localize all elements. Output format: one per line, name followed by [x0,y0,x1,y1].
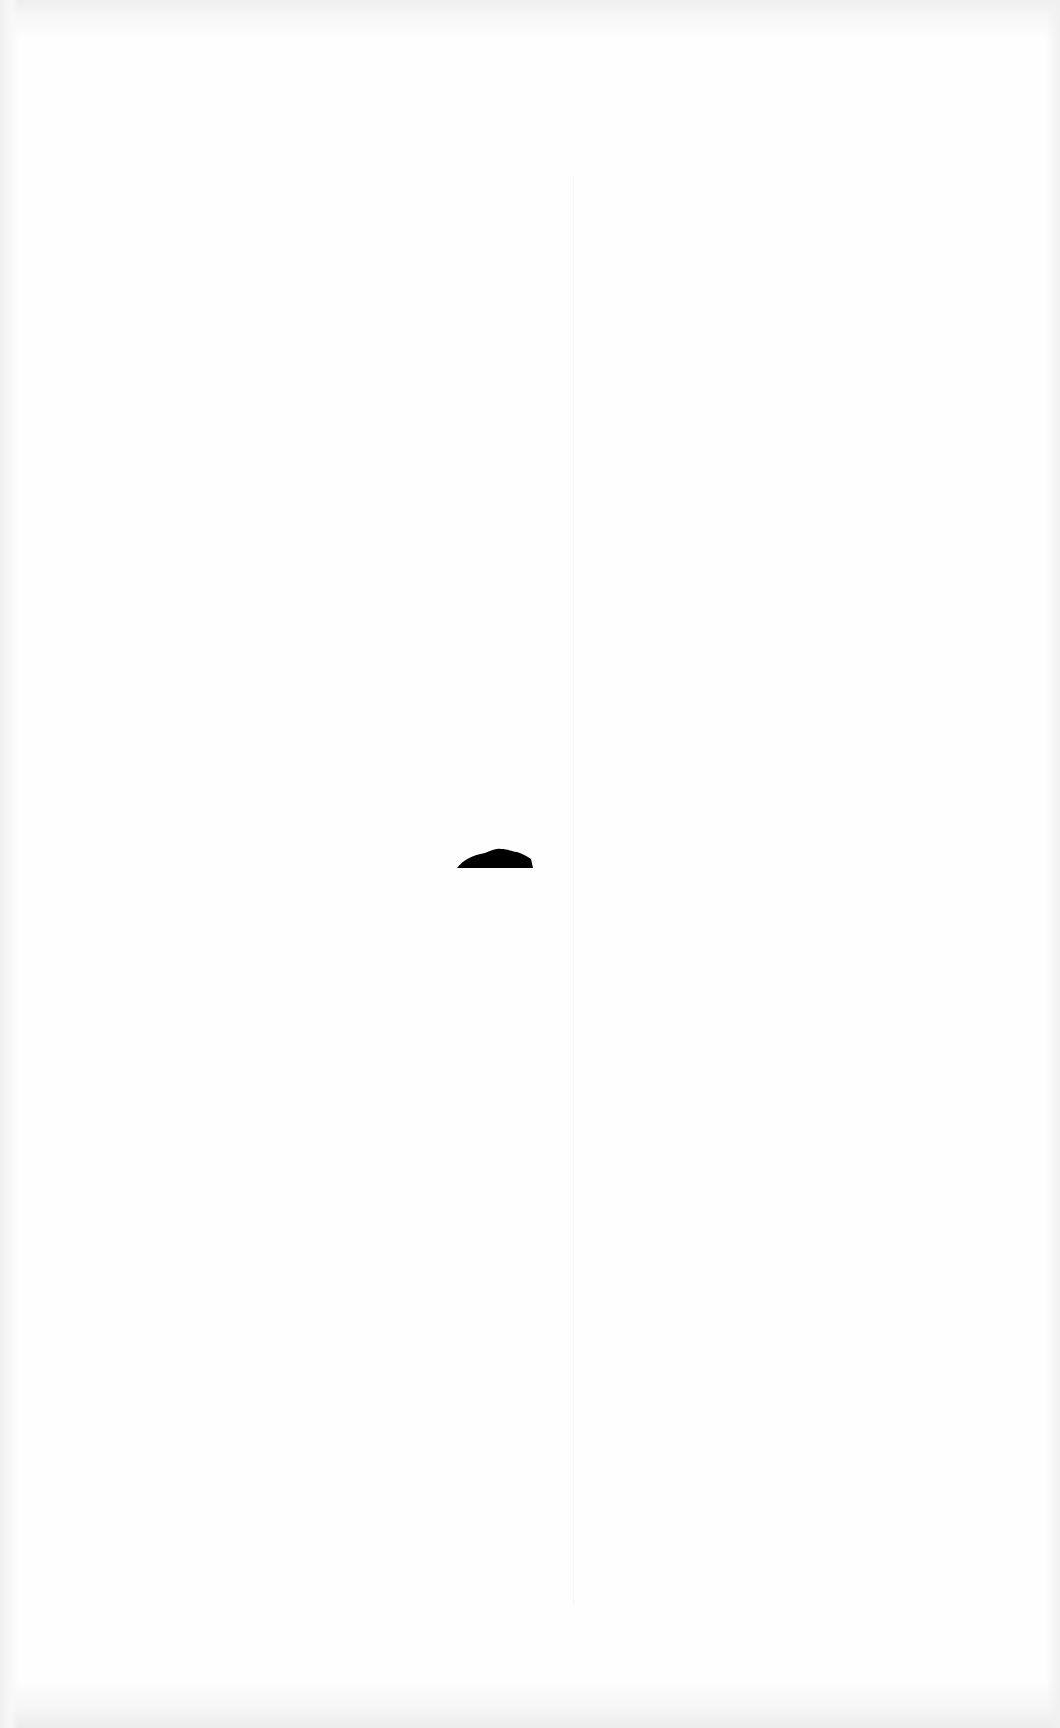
scan-edge-left [0,0,18,1728]
faded-column-rule [573,175,574,1605]
scanned-document-page [0,0,1060,1728]
scan-edge-top [0,0,1060,40]
scan-edge-right [1046,0,1060,1728]
ink-blot-mark [455,846,535,870]
scan-edge-bottom [0,1678,1060,1728]
